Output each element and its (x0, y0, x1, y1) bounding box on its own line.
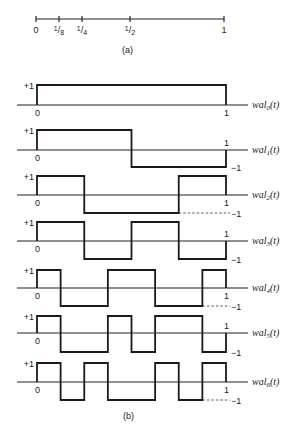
tick-label: 0 (33, 25, 38, 35)
minus-one-label: −1 (231, 396, 241, 406)
caption-b: (b) (123, 411, 134, 421)
plus-one-label: +1 (24, 218, 34, 228)
plus-one-label: +1 (24, 312, 34, 322)
one-label: 1 (224, 385, 229, 395)
tick-label: 1 (221, 25, 226, 35)
waveform-wal-0: +101wal0(t) (17, 81, 280, 118)
caption-a: (a) (122, 45, 133, 55)
minus-one-label: −1 (231, 302, 241, 312)
zero-label: 0 (35, 336, 40, 346)
plus-one-label: +1 (24, 359, 34, 369)
minus-one-label: −1 (231, 163, 241, 173)
one-label: 1 (224, 321, 229, 331)
function-label: wal6(t) (252, 376, 280, 389)
tick-label: 1/4 (77, 25, 87, 36)
one-label: 1 (224, 198, 229, 208)
one-label: 1 (224, 108, 229, 118)
zero-label: 0 (35, 244, 40, 254)
waveform-wal-5: +101−1wal5(t) (17, 312, 280, 358)
function-label: wal2(t) (252, 189, 280, 202)
walsh-waveform (37, 130, 226, 167)
walsh-waveform (37, 316, 226, 352)
minus-one-label: −1 (231, 348, 241, 358)
plus-one-label: +1 (24, 126, 34, 136)
waveform-wal-6: +101−1wal6(t) (17, 359, 280, 406)
zero-label: 0 (35, 108, 40, 118)
plus-one-label: +1 (24, 81, 34, 91)
function-label: wal5(t) (252, 327, 280, 340)
unit-interval-axis: 01/81/41/21 (33, 16, 226, 36)
waveform-wal-1: +101−1wal1(t) (17, 126, 280, 173)
walsh-waveform (37, 85, 226, 105)
function-label: wal3(t) (252, 235, 280, 248)
zero-label: 0 (35, 385, 40, 395)
tick-label: 1/2 (125, 25, 135, 36)
waveform-wal-3: +101−1wal3(t) (17, 218, 280, 265)
one-label: 1 (224, 291, 229, 301)
one-label: 1 (224, 229, 229, 239)
zero-label: 0 (35, 291, 40, 301)
function-label: wal1(t) (252, 144, 280, 157)
waveform-wal-2: +101−1wal2(t) (17, 172, 280, 219)
plus-one-label: +1 (24, 172, 34, 182)
waveform-wal-4: +101−1wal4(t) (17, 266, 280, 312)
minus-one-label: −1 (231, 209, 241, 219)
zero-label: 0 (35, 198, 40, 208)
minus-one-label: −1 (231, 255, 241, 265)
walsh-waveforms: +101wal0(t)+101−1wal1(t)+101−1wal2(t)+10… (17, 81, 280, 406)
function-label: wal4(t) (252, 282, 280, 295)
one-label: 1 (224, 138, 229, 148)
plus-one-label: +1 (24, 266, 34, 276)
walsh-functions-figure: 01/81/41/21 (a) +101wal0(t)+101−1wal1(t)… (0, 0, 299, 433)
zero-label: 0 (35, 153, 40, 163)
tick-label: 1/8 (54, 25, 64, 36)
function-label: wal0(t) (252, 99, 280, 112)
